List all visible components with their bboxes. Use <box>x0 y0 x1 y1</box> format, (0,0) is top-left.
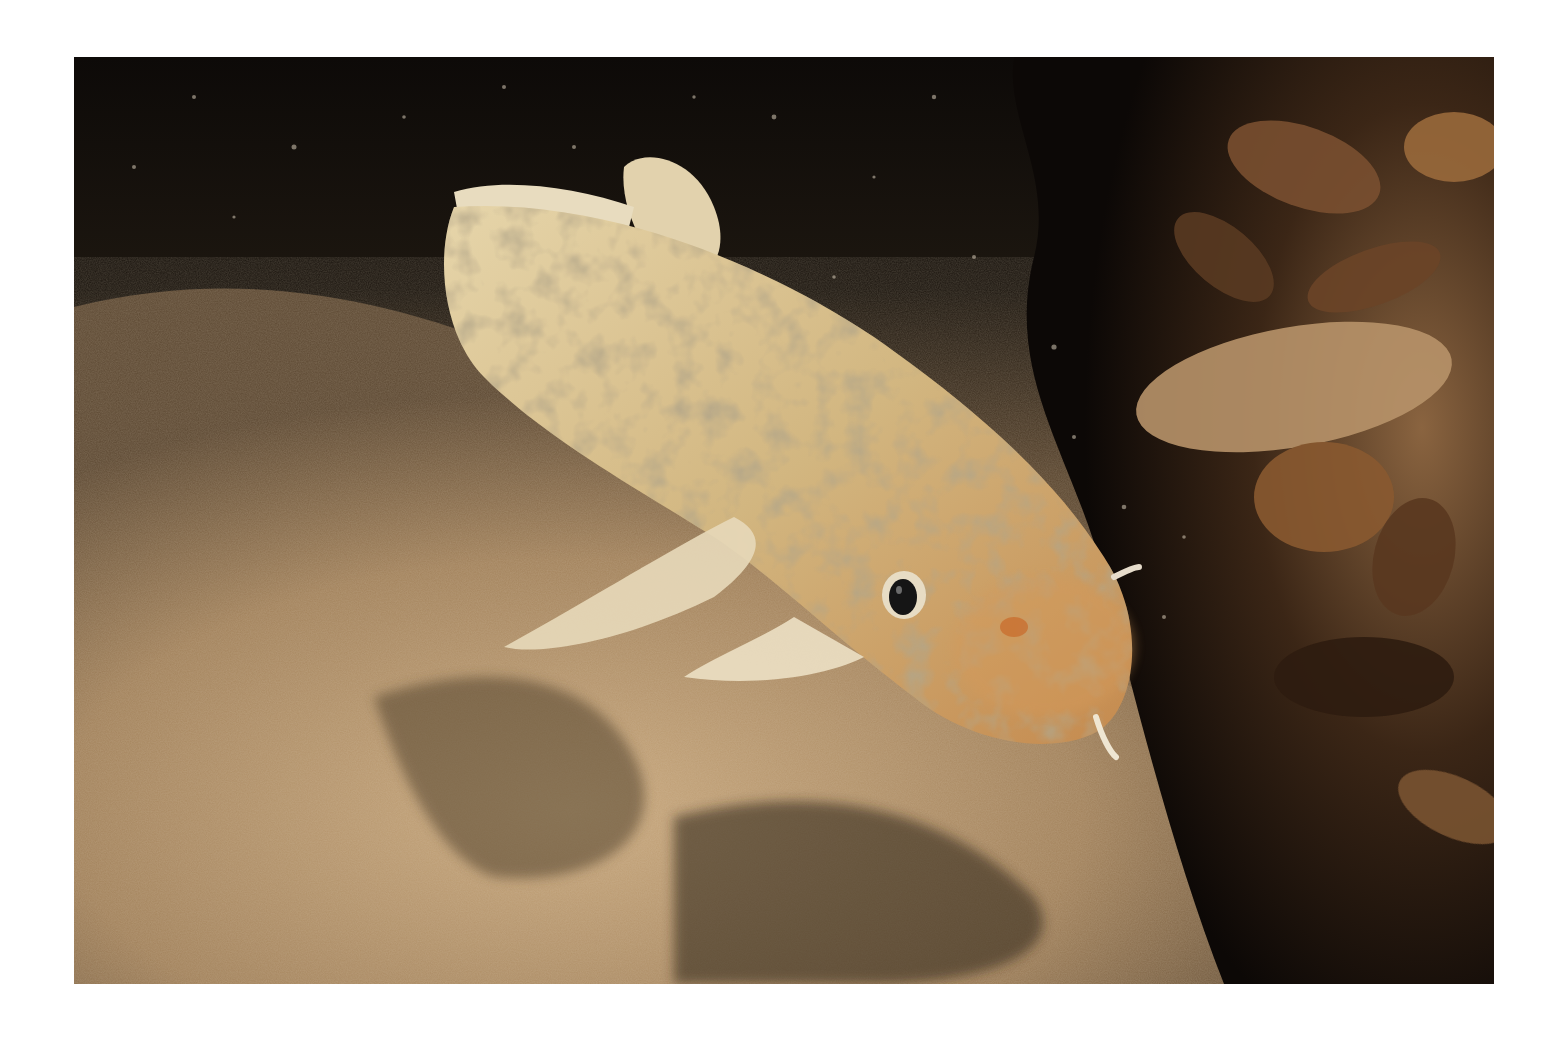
underwater-photo <box>74 57 1494 984</box>
photo-illustration <box>74 57 1494 984</box>
